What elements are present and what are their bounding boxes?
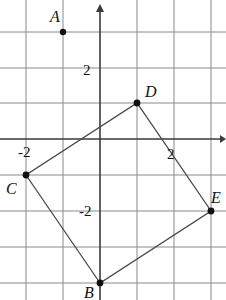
point-b-label: B bbox=[84, 284, 94, 300]
quadrilateral-outline bbox=[26, 103, 211, 283]
coordinate-plane-svg: A B C D E -2 2 -2 2 bbox=[0, 0, 226, 300]
point-b-marker bbox=[97, 280, 104, 287]
point-c-marker bbox=[23, 172, 30, 179]
point-c-label: C bbox=[6, 180, 17, 197]
point-d-label: D bbox=[144, 83, 157, 100]
tick-label-y-negative-2: -2 bbox=[79, 203, 92, 219]
grid-lines bbox=[0, 0, 226, 300]
coordinate-plane-figure: A B C D E -2 2 -2 2 bbox=[0, 0, 226, 300]
x-axis-arrow-icon bbox=[220, 135, 226, 143]
point-e-label: E bbox=[210, 189, 221, 206]
quadrilateral-bcde bbox=[26, 103, 211, 283]
tick-label-x-positive-2: 2 bbox=[167, 146, 175, 162]
y-axis-arrow-icon bbox=[96, 4, 104, 12]
point-d-marker bbox=[134, 100, 141, 107]
point-a-marker bbox=[60, 29, 66, 35]
plotted-points bbox=[23, 29, 215, 287]
tick-label-y-positive-2: 2 bbox=[83, 62, 91, 78]
axes bbox=[0, 4, 226, 300]
point-e-marker bbox=[208, 208, 215, 215]
point-labels: A B C D E bbox=[6, 8, 221, 300]
tick-label-x-negative-2: -2 bbox=[18, 144, 31, 160]
point-a-label: A bbox=[49, 8, 60, 25]
